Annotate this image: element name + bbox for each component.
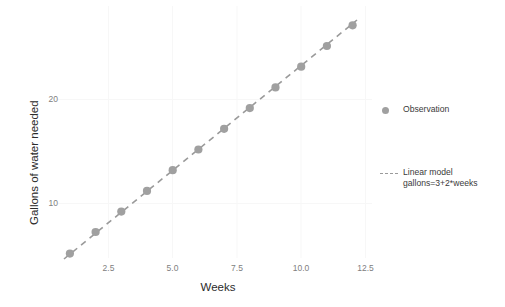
legend-item-linear-model[interactable]: Linear model gallons=3+2*weeks bbox=[378, 166, 502, 188]
data-point bbox=[169, 166, 177, 174]
data-point bbox=[194, 145, 202, 153]
data-point bbox=[349, 21, 357, 29]
data-point bbox=[271, 83, 279, 91]
x-tick-label-10.0: 10.0 bbox=[281, 263, 321, 273]
chart-container: 20 10 2.5 5.0 7.5 10.0 12.5 Weeks Gallon… bbox=[0, 0, 505, 307]
linear-model-line bbox=[64, 20, 357, 259]
legend-label-linear-model: Linear model gallons=3+2*weeks bbox=[400, 166, 478, 188]
chart-legend: Observation Linear model gallons=3+2*wee… bbox=[378, 103, 502, 188]
y-axis-title: Gallons of water needed bbox=[28, 100, 40, 225]
legend-label-observation: Observation bbox=[400, 103, 449, 115]
data-point bbox=[246, 104, 254, 112]
legend-label-line1: Linear model bbox=[403, 167, 453, 177]
data-point bbox=[143, 187, 151, 195]
x-tick-label-12.5: 12.5 bbox=[346, 263, 386, 273]
x-tick-label-5.0: 5.0 bbox=[153, 263, 193, 273]
dashed-line-icon bbox=[378, 166, 400, 182]
x-tick-label-7.5: 7.5 bbox=[217, 263, 257, 273]
x-axis-title: Weeks bbox=[0, 281, 436, 293]
data-point bbox=[323, 42, 331, 50]
data-point bbox=[66, 250, 74, 258]
x-tick-label-2.5: 2.5 bbox=[89, 263, 129, 273]
legend-label-line2: gallons=3+2*weeks bbox=[403, 178, 478, 188]
point-marker-icon bbox=[378, 103, 400, 119]
legend-item-observation[interactable]: Observation bbox=[378, 103, 502, 119]
data-point bbox=[117, 208, 125, 216]
data-point bbox=[297, 63, 305, 71]
data-point bbox=[92, 228, 100, 236]
data-point bbox=[220, 125, 228, 133]
